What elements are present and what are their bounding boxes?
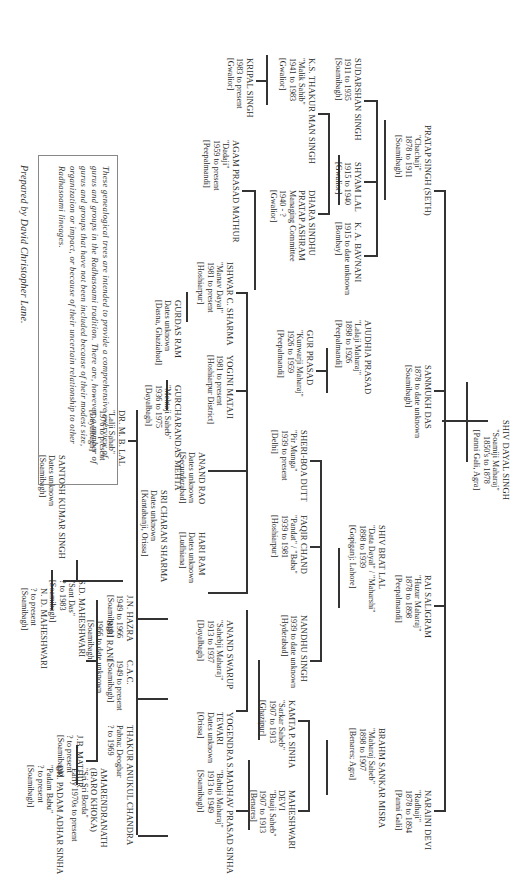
connector [76,560,78,580]
node-pratap-singh: PRATAP SINGH (SETH) "Chachaji" 1878 to 1… [394,125,432,216]
connector [444,190,446,810]
connector [298,720,310,722]
node-nd-maheshwari: N. D. MAHESHWARI ? to present [Soamibagh… [19,588,48,669]
node-dhara-sindhu-pratap-ashram: DHARA SINDHU PRATAP ASHRAM Managing Comm… [268,190,316,280]
connector [310,460,322,462]
connector [138,698,168,700]
connector [364,181,378,183]
node-ks-thakur-man-singh: K.S. THAKUR MAN SINGH "Malik Sahib" 1941… [278,58,316,164]
explanatory-note: These genealogical trees are intended to… [38,155,118,485]
node-sri-charan-sharma: SRI CHARAN SHARMA Dates unknown [Kantaba… [139,490,168,582]
connector [308,720,310,810]
connector [310,546,322,548]
connector [236,390,248,392]
connector [138,835,168,837]
node-rai-saligram: RAI SALIGRAM "Huzur Maharaj" 1878 to 189… [394,575,432,638]
connector [236,292,248,294]
connector [326,740,328,795]
connector [328,113,330,213]
connector [434,605,446,607]
connector [434,190,446,192]
connector [376,100,378,255]
connector [208,592,248,594]
node-shiv-brat-lal: SHIV BRAT LAL "Data Dayal" / "Maharshi" … [348,525,386,613]
connector [298,810,310,812]
node-shiv-dayal-singh: SHIV DAYAL SINGH "Soamiji Maharaj" 1850'… [472,420,510,500]
connector [316,370,328,372]
node-amarendranath: AMARENDRANATH (BARO KHOKA) "Sri Sri Bord… [70,768,108,873]
node-shyam-lal: SHYAM LAL 1915 to 1940 [Gwalior] [333,162,362,212]
node-anand-swarup: ANAND SWARUP "Sahebji Maharaj" 1913 to 1… [196,620,234,689]
node-maheshwari-devi: MAHESHWARI DEVI "Buaji Saheb" 1907 to 19… [248,790,296,860]
node-kripal-singh: KRIPAL SINGH 1983 to present [Gwalior] [225,58,254,118]
credit-line: Prepared by David Christopher Lane. [19,165,30,324]
node-gurdas-ram: GURDAS RAM Dates unknown [Dasna, Ghaziab… [153,300,182,365]
connector [246,292,248,592]
node-agam-prasad-mathur: AGAM PRASAD MATHUR "Dadaji" 1959 to pres… [202,140,240,243]
node-thakur-anukul-chandra: THAKUR ANUKUL CHANDRA Pabna; Deoghar ? t… [105,725,134,845]
node-nandhu-singh: NANDHU SINGH 1939 to date unknown [Hyder… [279,615,308,688]
connector [256,80,268,82]
connector [364,255,378,257]
node-kamta-p-sinha: KAMTA P. SINHA "Sarkar Saheb" 1907 to 19… [258,700,296,768]
node-ishwar-c-sharma: ISHWAR C. SHARMA "Manav Dayal" 1981 to p… [196,262,234,346]
connector [338,548,340,608]
node-naraini-devi: NARAINI DEVI "Radhaji" 1878 to 1894 [Pan… [394,790,432,850]
node-gur-prasad: GUR PRASAD "Kunwarji Maharaj" 1926 to 19… [276,330,314,397]
connector [208,470,248,472]
node-faqir-chand: FAQIR CHAND "Pandat" / "Baba" 1939 to 19… [270,515,308,574]
node-ajudhia-prasad: AJUDHIA PRASAD "Lalaji Maharaj" 1898 to … [334,320,372,394]
node-sanmukh-das: SANMUKH DAS 1878 to date unknown [Soamib… [403,365,432,438]
connector [384,120,386,200]
node-sudarshan-singh: SUDARSHAN SINGH 1911 to 1935 [Soamibagh] [333,58,362,140]
connector [86,760,98,762]
node-sd-maheshwari: S.D. MAHESHWARI "Sant Das" ? to 1983 [So… [48,580,86,657]
connector [246,610,248,710]
node-brahm-sankar-misra: BRAHM SANKAR MISRA "Maharaj Saheb" 1898 … [348,728,386,828]
connector [242,190,256,192]
node-yogini-mataji: YOGINI MATAJI 1981 to present [Hoshiarpu… [205,355,234,424]
connector [364,100,378,102]
connector [138,618,168,620]
connector [254,190,256,290]
connector [136,440,138,835]
node-dr-padam-adhar-sinha: DR. PADAM ADHAR SINHA "Padam Babu" ? to … [26,765,64,874]
node-sheri-boa-dutt: SHERI-BOA DUTT "Pir Munga" 1939 to prese… [270,430,308,502]
connector [310,660,322,662]
node-ka-bavnani: K. A. BAVNANI 1915 to date unknown [Bomb… [333,222,362,295]
connector [434,390,446,392]
node-bibi-rani: BIBI RANI 1966 to date unknown [Soamibag… [85,620,114,693]
connector [434,810,446,812]
connector [318,213,330,215]
node-hari-ram: HARI RAM Dates unknown [Ludhiana] [177,532,206,583]
connector [318,113,330,115]
node-yogendra-s-tewari: YOGENDRA S. TEWARI Dates unknown [Orissa… [196,712,234,772]
connector [320,460,322,660]
connector [236,710,248,712]
node-gurcharandas-mehta: GURCHARANDAS MEHTA "Mehtaji Saheb" 1936 … [144,385,182,490]
node-madhav-prasad-sinha: MADHAV PRASAD SINHA "Babuji Maharaj" 191… [196,770,234,874]
connector [186,292,188,322]
connector [466,382,468,462]
